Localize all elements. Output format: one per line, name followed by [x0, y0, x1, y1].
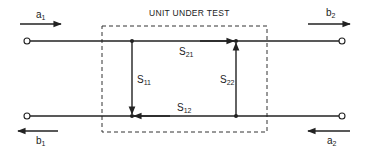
label-s12: S12	[177, 103, 191, 114]
port-2-bottom-terminal	[339, 113, 345, 119]
port-2-top-terminal	[339, 38, 345, 44]
port-1-top-terminal	[24, 38, 30, 44]
label-s21: S21	[179, 47, 193, 58]
node-b1-internal	[130, 114, 134, 118]
node-a1-internal	[130, 39, 134, 43]
label-a2: a2	[327, 136, 336, 147]
label-s11: S11	[137, 75, 151, 86]
label-a1: a1	[36, 10, 45, 21]
label-b1: b1	[36, 136, 45, 147]
node-a2-internal	[234, 114, 238, 118]
port-1-bottom-terminal	[24, 113, 30, 119]
label-s22: S22	[220, 75, 234, 86]
node-b2-internal	[234, 39, 238, 43]
diagram-title: UNIT UNDER TEST	[149, 9, 230, 18]
signal-flow-graph	[0, 0, 369, 158]
label-b2: b2	[326, 8, 335, 19]
